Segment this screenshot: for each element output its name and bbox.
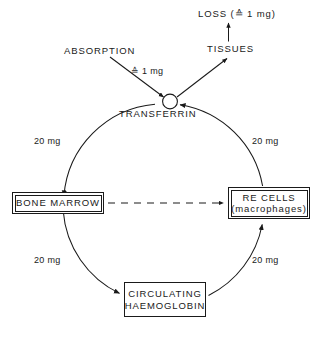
label-absorption: ABSORPTION — [64, 46, 135, 57]
node-bone-marrow-inner: BONE MARROW — [15, 195, 102, 212]
label-flow-haemoglobin-to-re-cells: 20 mg — [252, 255, 279, 265]
label-tissues: TISSUES — [207, 44, 254, 55]
label-loss: LOSS (≙ 1 mg) — [198, 9, 276, 20]
label-flow-re-cells-to-transferrin: 20 mg — [252, 136, 279, 146]
node-haemoglobin-line1: CIRCULATING — [128, 288, 202, 299]
node-re-cells-sublabel: (macrophages) — [231, 203, 307, 214]
node-re-cells: RE CELLS (macrophages) — [228, 187, 310, 219]
node-re-cells-label: RE CELLS — [242, 192, 295, 203]
node-bone-marrow-label: BONE MARROW — [16, 197, 100, 208]
label-flow-bone-marrow-to-haemoglobin: 20 mg — [34, 255, 61, 265]
diagram-canvas: LOSS (≙ 1 mg) TISSUES ABSORPTION ≙ 1 mg … — [0, 0, 327, 341]
node-re-cells-inner: RE CELLS (macrophages) — [231, 190, 308, 217]
node-haemoglobin-line2: HAEMOGLOBIN — [125, 300, 206, 311]
arrow-transferrin-to-tissues — [177, 59, 227, 98]
node-circulating-haemoglobin: CIRCULATING HAEMOGLOBIN — [124, 282, 206, 317]
label-flow-transferrin-to-bone-marrow: 20 mg — [34, 136, 61, 146]
arrow-absorption-to-transferrin — [110, 57, 164, 97]
label-transferrin: TRANSFERRIN — [119, 109, 196, 120]
transferrin-node-circle — [163, 94, 178, 109]
label-absorption-amount: ≙ 1 mg — [131, 66, 163, 76]
arc-bone-marrow-to-haemoglobin — [63, 211, 119, 293]
node-bone-marrow: BONE MARROW — [12, 192, 104, 214]
